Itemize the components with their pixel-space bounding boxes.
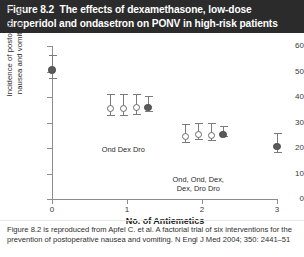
- figure-title-banner: Figure 8.2 The effects of dexamethasone,…: [0, 0, 304, 33]
- error-bar-cap: [133, 114, 141, 115]
- group-annotation-label: Ond Dex Dro: [100, 146, 146, 155]
- figure-divider: [0, 220, 304, 221]
- marker-open: [120, 105, 127, 112]
- marker-filled: [273, 143, 281, 151]
- error-bar-cap: [274, 152, 282, 153]
- x-tick: [202, 199, 203, 204]
- error-bar-cap: [274, 133, 282, 134]
- error-bar-cap: [182, 124, 190, 125]
- marker-open: [133, 104, 140, 111]
- y-axis-label: Incidence of postoperative nausea and vo…: [5, 3, 27, 99]
- marker-filled: [219, 131, 227, 139]
- error-bar-cap: [208, 123, 216, 124]
- marker-open: [107, 105, 114, 112]
- y-tick: [47, 46, 52, 47]
- y-tick-label: 60: [262, 41, 304, 50]
- error-bar-cap: [182, 142, 190, 143]
- error-bar-cap: [120, 94, 128, 95]
- caption-line-2: prevention of postoperative nausea and v…: [7, 235, 298, 245]
- y-tick-label: 50: [262, 67, 304, 76]
- marker-open: [182, 133, 189, 140]
- y-tick: [47, 97, 52, 98]
- error-bar-cap: [107, 94, 115, 95]
- marker-open: [195, 131, 202, 138]
- error-bar-cap: [107, 115, 115, 116]
- x-tick: [52, 199, 53, 204]
- error-bar-cap: [208, 140, 216, 141]
- x-tick-label: 0: [42, 205, 62, 214]
- error-bar-cap: [120, 115, 128, 116]
- error-bar-cap: [195, 123, 203, 124]
- error-bar-cap: [49, 55, 57, 56]
- y-tick-label: 10: [262, 169, 304, 178]
- error-bar-cap: [220, 126, 228, 127]
- error-bar-cap: [49, 78, 57, 79]
- error-bar-cap: [133, 94, 141, 95]
- y-tick-label: 30: [262, 118, 304, 127]
- x-axis-line: [52, 199, 278, 200]
- group-annotation-label: Ond, Ond, Dex, Dex, Dro Dro: [162, 176, 234, 193]
- marker-open: [208, 132, 215, 139]
- y-tick-label: 0: [262, 194, 304, 203]
- page-title: Figure 8.2 The effects of dexamethasone,…: [7, 3, 298, 30]
- error-bar-cap: [145, 96, 153, 97]
- figure-caption: Figure 8.2 is reproduced from Apfel C. e…: [0, 225, 304, 244]
- y-tick-label: 40: [262, 92, 304, 101]
- y-tick-label: 20: [262, 143, 304, 152]
- x-tick-label: 1: [117, 205, 137, 214]
- error-bar-cap: [195, 139, 203, 140]
- x-tick: [127, 199, 128, 204]
- y-tick: [47, 148, 52, 149]
- caption-line-1: Figure 8.2 is reproduced from Apfel C. e…: [7, 225, 298, 235]
- chart-plot-area: 0102030405060 0123 Incidence of postoper…: [0, 33, 304, 223]
- marker-filled: [144, 104, 152, 112]
- x-tick: [277, 199, 278, 204]
- marker-filled: [48, 66, 56, 74]
- y-tick: [47, 123, 52, 124]
- x-tick-label: 2: [192, 205, 212, 214]
- x-tick-label: 3: [267, 205, 287, 214]
- y-tick: [47, 174, 52, 175]
